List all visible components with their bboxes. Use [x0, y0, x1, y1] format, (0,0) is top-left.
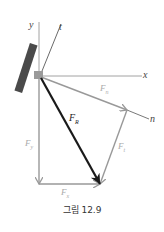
- y-axis-label: y: [29, 20, 33, 30]
- fy-label: Fy: [25, 139, 33, 150]
- x-axis-label: x: [143, 70, 147, 80]
- fx-label: Fx: [61, 188, 69, 199]
- plate: [14, 43, 37, 93]
- n-axis-label: n: [150, 114, 155, 124]
- figure-caption: 그림 12.9: [0, 203, 164, 216]
- fn-vector: [41, 77, 127, 110]
- ft-label: Ft: [118, 142, 125, 153]
- t-axis: [40, 24, 61, 76]
- force-diagram: [0, 0, 164, 232]
- n-axis: [127, 110, 149, 119]
- t-axis-label: t: [59, 22, 62, 32]
- fr-label: FR: [69, 113, 79, 125]
- fn-label: Fn: [100, 84, 109, 95]
- fr-vector: [41, 78, 100, 184]
